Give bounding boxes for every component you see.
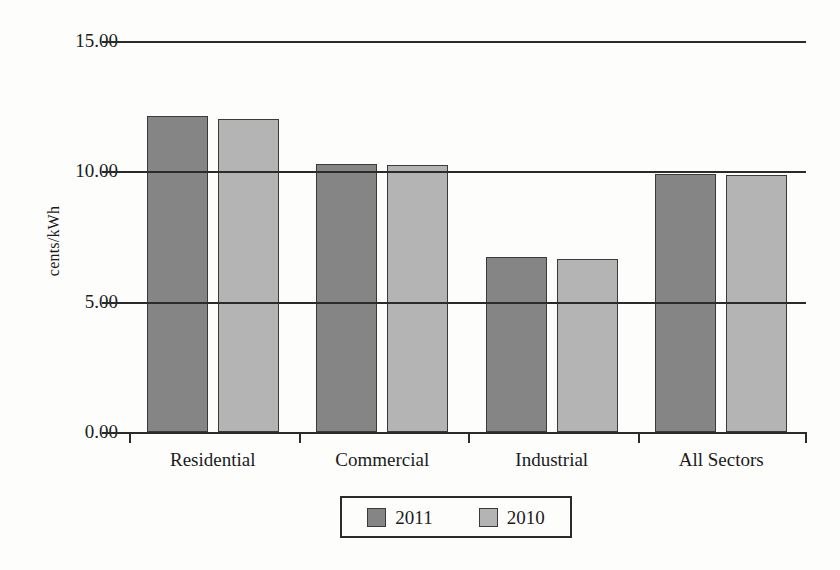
x-tick-mark: [638, 432, 640, 443]
x-axis-label-commercial: Commercial: [298, 448, 468, 472]
legend-swatch-icon: [479, 508, 498, 527]
legend-entry-2011[interactable]: 2011: [367, 508, 432, 527]
legend-entry-2010[interactable]: 2010: [479, 508, 545, 527]
gridline-0.00: [128, 432, 806, 434]
x-tick-mark: [129, 432, 131, 443]
bar-industrial-2011: [486, 257, 547, 432]
x-tick-mark: [299, 432, 301, 443]
x-axis-end-tick: [805, 432, 807, 443]
gridline-10.00: [128, 171, 806, 173]
bar-chart: cents/kWh 0.005.0010.0015.00 Residential…: [0, 0, 840, 570]
legend-label: 2011: [395, 508, 432, 527]
bar-commercial-2010: [387, 165, 448, 432]
legend-label: 2010: [507, 508, 545, 527]
chart-legend: 20112010: [340, 496, 572, 538]
y-tick-mark: [102, 302, 128, 304]
bar-industrial-2010: [557, 259, 618, 432]
legend-swatch-icon: [367, 508, 386, 527]
gridline-5.00: [128, 302, 806, 304]
bar-commercial-2011: [316, 164, 377, 432]
bar-residential-2011: [147, 116, 208, 432]
x-axis-label-residential: Residential: [128, 448, 298, 472]
x-axis-category-labels: ResidentialCommercialIndustrialAll Secto…: [128, 448, 806, 478]
y-tick-mark: [102, 171, 128, 173]
gridline-15.00: [128, 41, 806, 43]
bars-layer: [128, 41, 806, 432]
x-tick-mark: [468, 432, 470, 443]
y-tick-mark: [102, 41, 128, 43]
y-axis-tick-labels: 0.005.0010.0015.00: [50, 0, 118, 570]
bar-residential-2010: [218, 119, 279, 432]
x-axis-label-industrial: Industrial: [467, 448, 637, 472]
x-axis-label-all-sectors: All Sectors: [637, 448, 807, 472]
plot-area: [128, 41, 806, 432]
y-tick-mark: [102, 432, 128, 434]
